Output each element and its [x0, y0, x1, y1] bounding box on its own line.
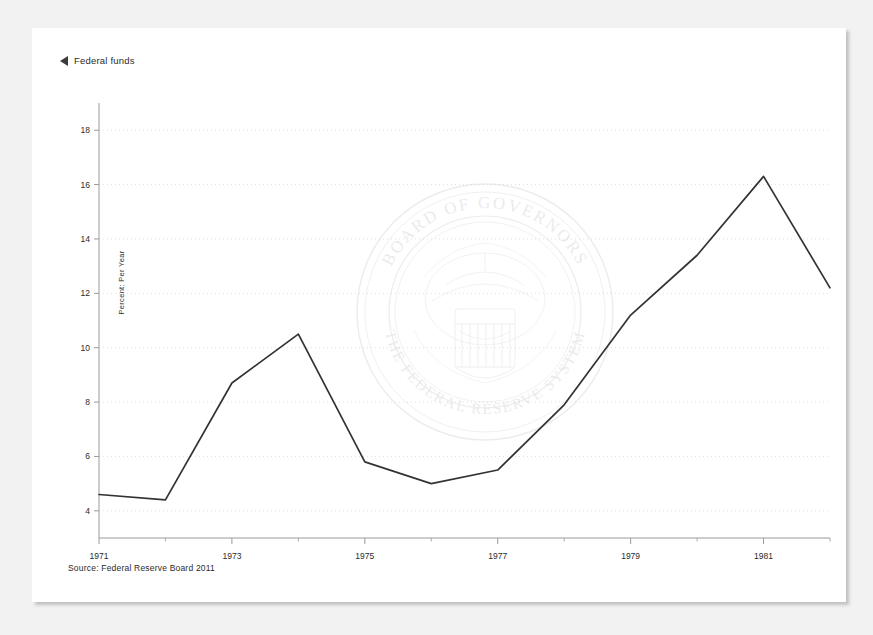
- x-tick-label: 1979: [621, 551, 640, 561]
- x-tick-label: 1975: [355, 551, 374, 561]
- gridlines: [99, 130, 830, 511]
- plot-area: BOARD OF GOVERNORS THE FEDERAL RESERVE S…: [99, 103, 830, 538]
- data-series-lines: [99, 176, 830, 500]
- y-tick-label: 8: [85, 397, 90, 407]
- tick-marks: [94, 130, 830, 544]
- chart-plot: [99, 103, 830, 538]
- source-caption: Source: Federal Reserve Board 2011: [68, 563, 215, 573]
- left-triangle-icon: [60, 56, 68, 66]
- x-tick-label: 1977: [488, 551, 507, 561]
- y-tick-label: 12: [81, 288, 90, 298]
- chart-frame: Federal funds: [32, 28, 846, 602]
- x-tick-label: 1973: [222, 551, 241, 561]
- chart-legend: Federal funds: [60, 55, 135, 66]
- chart-page: Federal funds: [0, 0, 873, 635]
- y-tick-label: 18: [81, 125, 90, 135]
- y-tick-label: 10: [81, 343, 90, 353]
- y-tick-label: 16: [81, 180, 90, 190]
- x-tick-label: 1971: [90, 551, 109, 561]
- x-tick-label: 1981: [754, 551, 773, 561]
- y-tick-label: 4: [85, 506, 90, 516]
- series-line-federal-funds: [99, 176, 830, 500]
- legend-series-label: Federal funds: [74, 55, 135, 66]
- axis-lines: [99, 103, 830, 538]
- y-tick-label: 14: [81, 234, 90, 244]
- y-tick-label: 6: [85, 451, 90, 461]
